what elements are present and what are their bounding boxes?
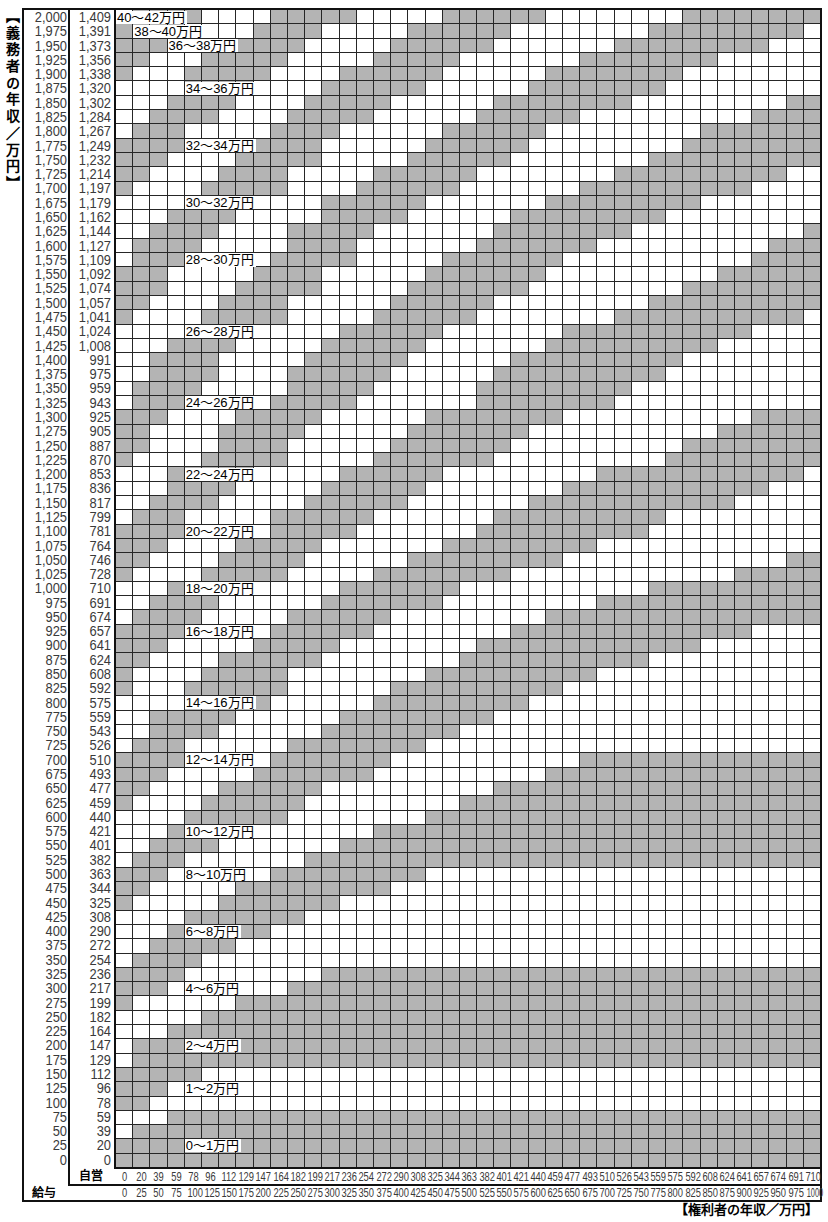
payee-salary-label: 225 xyxy=(273,1186,285,1200)
payee-salary-label: 450 xyxy=(427,1186,439,1200)
payee-self-employed-label: 559 xyxy=(651,1169,663,1184)
payee-salary-label: 300 xyxy=(324,1186,336,1200)
payee-salary-label: 425 xyxy=(410,1186,422,1200)
payee-self-employed-label: 477 xyxy=(565,1169,577,1184)
payee-salary-label: 725 xyxy=(616,1186,628,1200)
band-label: 40～42万円 xyxy=(116,11,187,24)
band-label: 2～4万円 xyxy=(185,1039,241,1052)
payee-salary-label: 800 xyxy=(668,1186,680,1200)
payee-salary-label: 375 xyxy=(376,1186,388,1200)
payee-self-employed-label: 39 xyxy=(153,1169,165,1184)
x-axis-title: 【権利者の年収／万円】 xyxy=(675,1202,818,1218)
payee-self-employed-label: 493 xyxy=(582,1169,594,1184)
band-label: 4～6万円 xyxy=(185,982,241,995)
payee-self-employed-label: 657 xyxy=(754,1169,766,1184)
payee-self-employed-label: 421 xyxy=(513,1169,525,1184)
payee-self-employed-label: 147 xyxy=(256,1169,268,1184)
payee-self-employed-label: 401 xyxy=(496,1169,508,1184)
payee-salary-label: 100 xyxy=(187,1186,199,1200)
payee-self-employed-label: 217 xyxy=(324,1169,336,1184)
payee-self-employed-label: 129 xyxy=(239,1169,251,1184)
payee-salary-label: 575 xyxy=(513,1186,525,1200)
payee-salary-label: 700 xyxy=(599,1186,611,1200)
payee-self-employed-label: 510 xyxy=(599,1169,611,1184)
payee-salary-label: 150 xyxy=(221,1186,233,1200)
payee-salary-label: 475 xyxy=(445,1186,457,1200)
payee-salary-label: 875 xyxy=(719,1186,731,1200)
band-label: 36～38万円 xyxy=(168,39,239,52)
payee-self-employed-label: 164 xyxy=(273,1169,285,1184)
payee-self-employed-label: 543 xyxy=(634,1169,646,1184)
payee-self-employed-label: 182 xyxy=(290,1169,302,1184)
payee-self-employed-label: 440 xyxy=(530,1169,542,1184)
y-axis-title: 【義務者の年収／万円】 xyxy=(3,9,21,193)
band-label: 24～26万円 xyxy=(185,396,256,409)
payee-self-employed-label: 78 xyxy=(187,1169,199,1184)
band-label: 16～18万円 xyxy=(185,625,256,638)
payee-self-employed-label: 254 xyxy=(359,1169,371,1184)
band-label: 38～40万円 xyxy=(133,25,204,38)
payee-salary-label: 775 xyxy=(651,1186,663,1200)
payee-salary-label: 350 xyxy=(359,1186,371,1200)
payee-self-employed-label: 641 xyxy=(737,1169,749,1184)
payee-salary-label: 400 xyxy=(393,1186,405,1200)
payer-self-employed-label: 0 xyxy=(76,1153,111,1167)
payee-self-employed-label: 624 xyxy=(719,1169,731,1184)
payee-salary-label: 0 xyxy=(118,1186,130,1200)
payee-salary-label: 950 xyxy=(771,1186,783,1200)
payee-salary-label: 975 xyxy=(788,1186,800,1200)
payee-salary-label: 900 xyxy=(737,1186,749,1200)
payee-salary-label: 175 xyxy=(239,1186,251,1200)
payee-salary-label: 500 xyxy=(462,1186,474,1200)
x-axis-salary-header: 給与 xyxy=(32,1186,56,1200)
band-label: 8～10万円 xyxy=(185,868,249,881)
payee-salary-label: 825 xyxy=(685,1186,697,1200)
payee-salary-label: 325 xyxy=(342,1186,354,1200)
band-label: 0～1万円 xyxy=(185,1139,241,1152)
band-label: 28～30万円 xyxy=(185,253,256,266)
payee-self-employed-label: 20 xyxy=(136,1169,148,1184)
band-label: 30～32万円 xyxy=(185,196,256,209)
payee-self-employed-label: 691 xyxy=(788,1169,800,1184)
payee-salary-label: 1000 xyxy=(807,1186,817,1200)
payee-self-employed-label: 325 xyxy=(427,1169,439,1184)
band-label: 1～2万円 xyxy=(185,1082,241,1095)
payee-self-employed-label: 96 xyxy=(204,1169,216,1184)
payee-self-employed-label: 608 xyxy=(702,1169,714,1184)
payee-self-employed-label: 236 xyxy=(342,1169,354,1184)
payee-salary-label: 925 xyxy=(754,1186,766,1200)
band-label: 10～12万円 xyxy=(185,825,256,838)
payee-self-employed-label: 459 xyxy=(548,1169,560,1184)
payee-self-employed-label: 0 xyxy=(118,1169,130,1184)
payer-salary-label: 0 xyxy=(30,1153,67,1167)
band-label: 18～20万円 xyxy=(185,582,256,595)
payee-self-employed-label: 59 xyxy=(170,1169,182,1184)
payee-salary-label: 650 xyxy=(565,1186,577,1200)
payee-self-employed-label: 308 xyxy=(410,1169,422,1184)
payee-self-employed-label: 592 xyxy=(685,1169,697,1184)
payee-salary-label: 600 xyxy=(530,1186,542,1200)
band-label: 14～16万円 xyxy=(185,696,256,709)
band-label: 22～24万円 xyxy=(185,468,256,481)
payee-salary-label: 850 xyxy=(702,1186,714,1200)
payee-self-employed-label: 290 xyxy=(393,1169,405,1184)
payee-self-employed-label: 112 xyxy=(221,1169,233,1184)
payee-self-employed-label: 363 xyxy=(462,1169,474,1184)
payee-salary-label: 525 xyxy=(479,1186,491,1200)
band-label: 26～28万円 xyxy=(185,325,256,338)
payee-salary-label: 75 xyxy=(170,1186,182,1200)
payee-salary-label: 50 xyxy=(153,1186,165,1200)
payee-salary-label: 750 xyxy=(634,1186,646,1200)
band-label: 34～36万円 xyxy=(185,82,256,95)
band-label: 20～22万円 xyxy=(185,525,256,538)
band-label: 6～8万円 xyxy=(185,925,241,938)
payee-self-employed-label: 272 xyxy=(376,1169,388,1184)
payee-self-employed-label: 575 xyxy=(668,1169,680,1184)
payee-salary-label: 675 xyxy=(582,1186,594,1200)
payee-self-employed-label: 382 xyxy=(479,1169,491,1184)
support-amount-table: 【義務者の年収／万円】 2,0001,4091,9751,3911,9501,3… xyxy=(0,0,828,1222)
x-axis-self-employed-header: 自営 xyxy=(79,1169,103,1184)
payee-salary-label: 125 xyxy=(204,1186,216,1200)
payee-self-employed-label: 199 xyxy=(307,1169,319,1184)
payee-salary-label: 625 xyxy=(548,1186,560,1200)
